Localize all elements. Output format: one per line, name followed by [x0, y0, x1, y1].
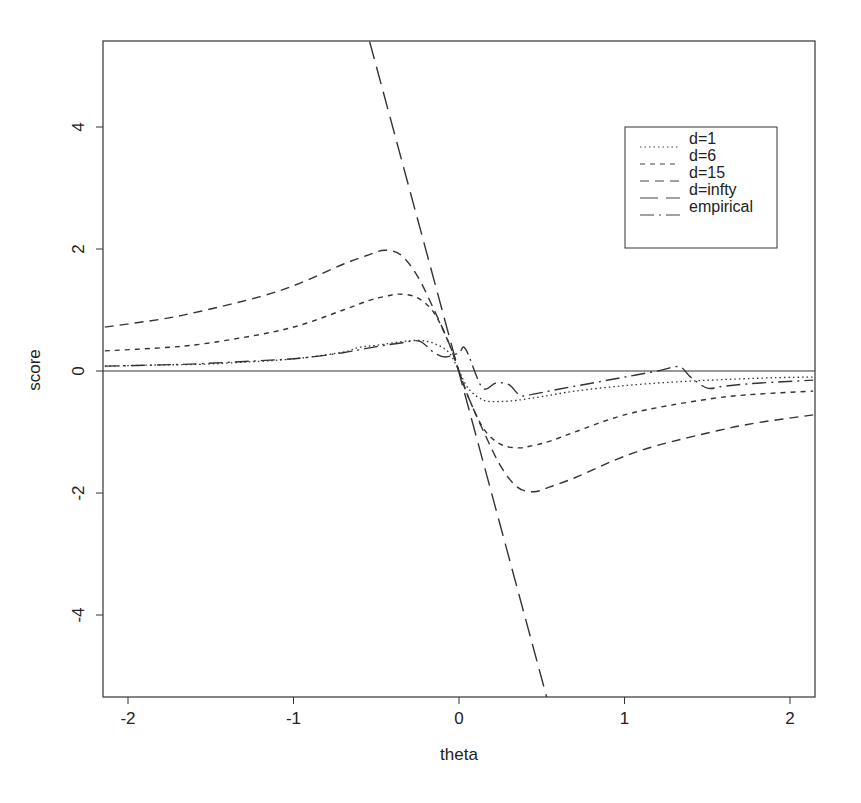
x-tick-label: -1 [286, 709, 301, 728]
y-tick-label: -4 [69, 607, 88, 622]
y-tick-label: 2 [69, 244, 88, 253]
x-axis-label: theta [440, 745, 478, 764]
y-tick-label: 0 [69, 366, 88, 375]
x-tick-label: 0 [454, 709, 463, 728]
y-tick-label: -2 [69, 485, 88, 500]
legend-label: d=1 [689, 130, 716, 147]
series-empirical [105, 341, 813, 396]
x-tick-label: 1 [620, 709, 629, 728]
y-axis: -4-2024 [69, 122, 103, 622]
x-tick-label: -2 [120, 709, 135, 728]
series-d-infty [370, 42, 547, 698]
legend-label: d=6 [689, 147, 716, 164]
legend-label: empirical [689, 198, 753, 215]
legend-label: d=15 [689, 164, 725, 181]
legend: d=1d=6d=15d=inftyempirical [625, 127, 777, 248]
legend-label: d=infty [689, 181, 737, 198]
chart: -2-1012 -4-2024 theta score d=1d=6d=15d=… [0, 0, 861, 803]
y-axis-label: score [25, 349, 44, 391]
x-tick-label: 2 [785, 709, 794, 728]
x-axis: -2-1012 [120, 697, 794, 728]
y-tick-label: 4 [69, 122, 88, 131]
